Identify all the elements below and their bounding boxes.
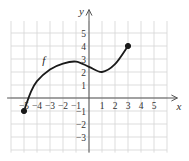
y-tick-label: −3	[76, 133, 86, 143]
y-axis-label: y	[78, 5, 84, 17]
endpoint-marker	[125, 43, 130, 48]
x-axis-label: x	[175, 100, 181, 112]
y-tick-label: 1	[81, 81, 86, 91]
y-tick-label: 5	[81, 29, 86, 39]
x-tick-label: 4	[139, 101, 144, 111]
axes	[7, 10, 177, 153]
x-tick-label: −5	[19, 101, 29, 111]
x-tick-label: −3	[45, 101, 55, 111]
x-tick-label: 5	[152, 101, 157, 111]
x-tick-label: −4	[32, 101, 42, 111]
y-tick-label: 2	[81, 68, 86, 78]
x-tick-label: 1	[100, 101, 105, 111]
y-tick-label: −2	[76, 120, 86, 130]
y-tick-label: −1	[76, 107, 86, 117]
y-tick-label: 4	[81, 42, 86, 52]
y-tick-label: 3	[81, 55, 86, 65]
function-label: f	[42, 54, 47, 66]
x-tick-label: −2	[58, 101, 68, 111]
x-tick-label: 3	[126, 101, 131, 111]
x-tick-label: 2	[113, 101, 118, 111]
function-graph: −5−4−3−2−11234554321−1−2−3xyf	[0, 0, 189, 161]
